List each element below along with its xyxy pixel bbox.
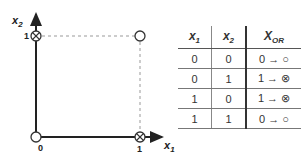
circle-marker (31, 132, 41, 142)
header-x2: x2 (212, 26, 247, 49)
table-row: 1 1 0 → ○ (178, 109, 301, 129)
circle-cross-marker (31, 31, 41, 41)
cell-x1: 1 (178, 89, 212, 109)
header-xor: XOR (246, 26, 301, 49)
cell-x2: 0 (212, 89, 247, 109)
x-axis-label: x1 (163, 139, 175, 154)
table-row: 0 0 0 → ○ (178, 49, 301, 69)
table-row: 0 1 1 → ⊗ (178, 69, 301, 89)
circle-marker (135, 31, 145, 41)
x-tick-0: 0 (38, 143, 43, 153)
cell-x1: 0 (178, 69, 212, 89)
y-axis-label: x2 (11, 14, 23, 29)
cell-xor: 0 → ○ (246, 109, 301, 129)
cell-x2: 1 (212, 69, 247, 89)
header-x1: x1 (178, 26, 212, 49)
cell-x2: 0 (212, 49, 247, 69)
table-row: 1 0 1 → ⊗ (178, 89, 301, 109)
circle-cross-marker (135, 132, 145, 142)
x-tick-1: 1 (137, 144, 142, 154)
cell-x2: 1 (212, 109, 247, 129)
cell-xor: 0 → ○ (246, 49, 301, 69)
cell-x1: 0 (178, 49, 212, 69)
xor-plot: x2 x1 1 0 1 (0, 0, 178, 160)
cell-xor: 1 → ⊗ (246, 89, 301, 109)
y-tick-1: 1 (24, 31, 29, 41)
cell-xor: 1 → ⊗ (246, 69, 301, 89)
xor-truth-table: x1 x2 XOR 0 0 0 → ○ 0 1 1 → ⊗ 1 0 1 → ⊗ … (178, 26, 301, 129)
cell-x1: 1 (178, 109, 212, 129)
